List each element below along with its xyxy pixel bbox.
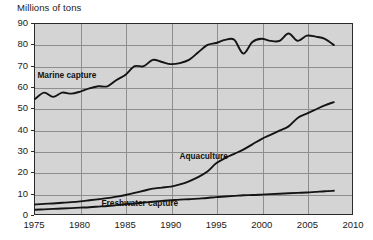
x-axis-tick-label: 1980 xyxy=(63,219,97,230)
x-axis-tick-label: 1995 xyxy=(199,219,233,230)
y-axis-tick-mark xyxy=(31,23,34,24)
y-axis-tick-mark xyxy=(31,172,34,173)
x-axis-tick-label: 1985 xyxy=(108,219,142,230)
y-axis-tick-mark xyxy=(31,130,34,131)
plot-area: Marine capture Aquaculture Freshwater ca… xyxy=(34,23,353,215)
y-axis-title: Millions of tons xyxy=(17,2,81,13)
x-axis-tick-label: 2010 xyxy=(336,219,370,230)
series-label-freshwater-capture: Freshwater capture xyxy=(102,198,179,208)
line-marine-capture xyxy=(35,34,334,99)
y-axis-tick-mark xyxy=(31,44,34,45)
y-axis-tick-mark xyxy=(31,151,34,152)
y-axis-tick-label: 60 xyxy=(2,81,28,92)
y-axis-tick-label: 90 xyxy=(2,17,28,28)
series-lines xyxy=(35,24,352,214)
y-axis-tick-mark xyxy=(31,66,34,67)
x-axis-tick-label: 2000 xyxy=(245,219,279,230)
y-axis-tick-label: 30 xyxy=(2,145,28,156)
y-axis-tick-mark xyxy=(31,87,34,88)
y-axis-tick-mark xyxy=(31,108,34,109)
y-axis-tick-mark xyxy=(31,215,34,216)
x-axis-tick-label: 1990 xyxy=(154,219,188,230)
fisheries-production-chart: Millions of tons Marine capture Aquacult… xyxy=(0,0,373,240)
line-freshwater-capture xyxy=(35,191,334,210)
y-axis-tick-label: 40 xyxy=(2,124,28,135)
series-label-marine-capture: Marine capture xyxy=(37,70,96,80)
x-axis-tick-label: 1975 xyxy=(17,219,51,230)
y-axis-tick-label: 70 xyxy=(2,60,28,71)
y-axis-tick-label: 20 xyxy=(2,166,28,177)
y-axis-tick-mark xyxy=(31,194,34,195)
x-axis-tick-label: 2005 xyxy=(290,219,324,230)
series-label-aquaculture: Aquaculture xyxy=(179,151,227,161)
y-axis-tick-label: 10 xyxy=(2,188,28,199)
y-axis-tick-label: 80 xyxy=(2,38,28,49)
y-axis-tick-label: 50 xyxy=(2,102,28,113)
